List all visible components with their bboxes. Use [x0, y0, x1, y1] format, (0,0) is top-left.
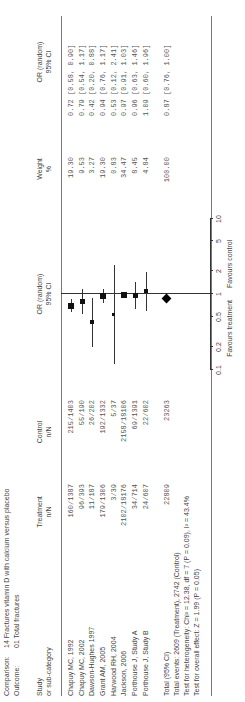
col-or-value-line2: 95% CI — [45, 32, 53, 92]
col-or-value-line1: OR (random) — [36, 32, 44, 92]
col-or-plot-line2: 95% CI — [45, 264, 53, 324]
study-name: Porthouse J, Study A — [131, 631, 139, 696]
treatment-value: 24/607 — [142, 484, 150, 542]
total-control: 23263 — [163, 400, 171, 462]
tick-label: 10 — [215, 209, 223, 229]
comparison-value: 14 Fractures vitamin D with calcium vers… — [3, 488, 11, 648]
tick-label: 0.5 — [215, 307, 223, 327]
heterogeneity-test: Test for heterogeneity: Chi² = 12.38, df… — [183, 496, 191, 696]
total-label: Total (95% CI) — [163, 652, 171, 696]
header-divider — [61, 16, 62, 696]
weight-value: 0.83 — [110, 157, 118, 197]
point-estimate — [144, 289, 148, 293]
col-control-line2: n/N — [45, 402, 53, 462]
col-treatment-line2: n/N — [45, 482, 53, 542]
study-name: Dawson-Hughes 1997 — [88, 627, 96, 696]
tick-label: 0.2 — [215, 337, 223, 357]
or-value: 0.79 [0.54, 1.17] — [78, 45, 86, 116]
weight-value: 3.27 — [88, 157, 96, 197]
control-value: 215/1403 — [67, 400, 75, 462]
study-name: Grant AM, 2005 — [99, 647, 107, 696]
control-value: 55/190 — [78, 400, 86, 462]
col-study-line1: Study — [36, 678, 44, 696]
treatment-value: 34/714 — [131, 484, 139, 542]
tick — [210, 270, 213, 271]
outcome-label: Outcome: — [13, 666, 21, 696]
footer-divider — [211, 16, 212, 696]
col-control-line1: Control — [36, 402, 44, 462]
col-or-plot-line1: OR (random) — [36, 264, 44, 324]
treatment-value: 160/1387 — [67, 484, 75, 542]
study-name: Jackson, 2006 — [120, 651, 128, 696]
point-estimate — [100, 293, 106, 299]
favours-control-label: Favours control — [226, 240, 234, 288]
or-value: 0.97 [0.91, 1.03] — [120, 45, 128, 116]
tick — [210, 369, 213, 370]
treatment-value: 2102/18176 — [120, 484, 128, 542]
tick-label: 2 — [215, 261, 223, 281]
study-name: Harwood RH, 2004 — [110, 636, 118, 696]
control-value: 2158/18106 — [120, 400, 128, 462]
or-value: 0.53 [0.12, 2.41] — [110, 45, 118, 116]
weight-value: 19.30 — [99, 157, 107, 197]
point-estimate — [90, 320, 94, 324]
or-value: 0.94 [0.76, 1.17] — [99, 45, 107, 116]
point-estimate — [112, 313, 115, 316]
point-estimate — [133, 293, 138, 298]
weight-value: 4.84 — [142, 157, 150, 197]
weight-value: 34.47 — [120, 157, 128, 197]
or-value: 0.72 [0.58, 0.90] — [67, 45, 75, 116]
tick — [210, 218, 213, 219]
or-value: 0.96 [0.63, 1.46] — [131, 45, 139, 116]
control-value: 69/1391 — [131, 400, 139, 462]
forest-plot-page: Comparison: 14 Fractures vitamin D with … — [0, 0, 245, 702]
point-estimate — [68, 303, 74, 309]
col-treatment-line1: Treatment — [36, 482, 44, 542]
tick — [210, 316, 213, 317]
overall-effect-test: Test for overall effect: Z = 1.99 (P = 0… — [193, 569, 201, 696]
col-weight-line1: Weight — [36, 149, 44, 189]
x-axis — [210, 219, 211, 370]
weight-value: 19.30 — [67, 157, 75, 197]
outcome-value: 01 Total fractures — [13, 594, 21, 648]
total-treatment: 22809 — [163, 484, 171, 542]
tick — [210, 293, 213, 294]
tick-label: 1 — [215, 284, 223, 304]
comparison-label: Comparison: — [3, 656, 11, 696]
control-value: 5/37 — [110, 400, 118, 462]
tick-label: 0.1 — [215, 360, 223, 380]
point-estimate — [121, 292, 127, 298]
control-value: 22/602 — [142, 400, 150, 462]
treatment-value: 96/393 — [78, 484, 86, 542]
study-name: Chapuy MC, 2002 — [78, 640, 86, 696]
col-weight-line2: % — [45, 149, 53, 189]
point-estimate — [80, 299, 85, 304]
weight-value: 9.53 — [78, 157, 86, 197]
study-name: Chapuy MC, 1992 — [67, 640, 75, 696]
favours-treatment-label: Favours treatment — [226, 300, 234, 372]
treatment-value: 3/39 — [110, 484, 118, 542]
tick — [210, 346, 213, 347]
treatment-value: 11/187 — [88, 484, 96, 542]
control-value: 26/202 — [88, 400, 96, 462]
pooled-estimate-diamond — [162, 294, 172, 304]
total-or: 0.87 [0.76, 1.00] — [163, 45, 171, 116]
study-name: Porthouse J, Study B — [142, 630, 150, 696]
total-weight: 100.00 — [163, 157, 171, 197]
treatment-value: 179/1306 — [99, 484, 107, 542]
control-value: 192/1332 — [99, 400, 107, 462]
weight-value: 8.45 — [131, 157, 139, 197]
tick — [210, 240, 213, 241]
col-study-line2: or sub-category — [45, 647, 53, 696]
total-events: Total events: 2609 (Treatment), 2742 (Co… — [173, 552, 181, 696]
tick-label: 5 — [215, 231, 223, 251]
or-value: 1.09 [0.60, 1.96] — [142, 45, 150, 116]
or-value: 0.42 [0.20, 0.88] — [88, 45, 96, 116]
